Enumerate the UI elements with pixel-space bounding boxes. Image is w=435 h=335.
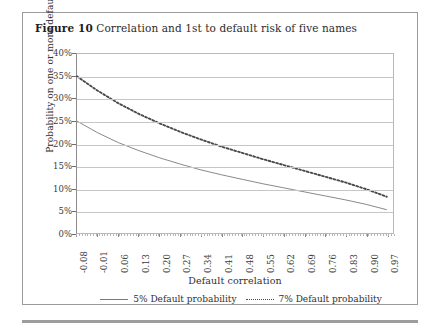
- legend-label-dotted: 7% Default probability: [279, 294, 382, 304]
- x-minor-tick-mark: [190, 234, 191, 236]
- x-minor-tick-mark: [298, 234, 299, 236]
- y-tick-label: 5%: [59, 207, 73, 216]
- y-tick-mark: [72, 53, 76, 54]
- x-minor-tick-mark: [201, 234, 202, 236]
- x-minor-tick-mark: [300, 234, 301, 236]
- x-minor-tick-mark: [127, 234, 128, 236]
- y-tick-label: 40%: [53, 49, 72, 58]
- x-minor-tick-mark: [153, 234, 154, 236]
- x-tick-label: 0.34: [204, 254, 213, 273]
- y-tick-label: 15%: [53, 162, 72, 171]
- x-minor-tick-mark: [326, 234, 327, 236]
- y-tick-mark: [72, 211, 76, 212]
- x-minor-tick-mark: [235, 234, 236, 236]
- y-tick-label: 35%: [53, 72, 72, 81]
- x-minor-tick-mark: [275, 234, 276, 236]
- x-minor-tick-mark: [204, 234, 205, 236]
- x-minor-tick-mark: [130, 234, 131, 236]
- x-minor-tick-mark: [170, 234, 171, 236]
- page-bottom-rule: [22, 320, 418, 323]
- figure-box: Figure 10 Correlation and 1st to default…: [22, 12, 418, 305]
- x-tick-label: 0.69: [308, 254, 317, 273]
- x-tick-label: -0.08: [80, 251, 89, 273]
- x-minor-tick-mark: [167, 234, 168, 236]
- x-minor-tick-mark: [255, 234, 256, 236]
- y-tick-mark: [72, 166, 76, 167]
- x-minor-tick-mark: [175, 234, 176, 236]
- gridline: [77, 99, 393, 100]
- x-minor-tick-mark: [99, 234, 100, 236]
- x-minor-tick-mark: [258, 234, 259, 236]
- x-minor-tick-mark: [187, 234, 188, 236]
- x-minor-tick-mark: [283, 234, 284, 236]
- x-minor-tick-mark: [119, 234, 120, 236]
- x-minor-tick-mark: [380, 234, 381, 236]
- x-minor-tick-mark: [368, 234, 369, 236]
- gridline: [77, 145, 393, 146]
- gridline: [77, 190, 393, 191]
- series-line-dotted: [77, 76, 387, 196]
- x-minor-tick-mark: [386, 234, 387, 236]
- x-minor-tick-mark: [184, 234, 185, 236]
- x-minor-tick-mark: [87, 234, 88, 236]
- x-minor-tick-mark: [198, 234, 199, 236]
- x-minor-tick-mark: [363, 234, 364, 236]
- y-tick-mark: [72, 121, 76, 122]
- x-minor-tick-mark: [241, 234, 242, 236]
- gridline: [77, 167, 393, 168]
- x-minor-tick-mark: [351, 234, 352, 236]
- x-minor-tick-mark: [124, 234, 125, 236]
- x-minor-tick-mark: [141, 234, 142, 236]
- x-minor-tick-mark: [309, 234, 310, 236]
- curves-svg: [77, 54, 393, 233]
- x-minor-tick-mark: [272, 234, 273, 236]
- x-minor-tick-mark: [93, 234, 94, 236]
- x-minor-tick-mark: [207, 234, 208, 236]
- x-minor-tick-mark: [252, 234, 253, 236]
- x-minor-tick-mark: [377, 234, 378, 236]
- x-minor-tick-mark: [110, 234, 111, 236]
- x-minor-tick-mark: [374, 234, 375, 236]
- x-minor-tick-mark: [329, 234, 330, 236]
- x-minor-tick-mark: [388, 234, 389, 236]
- x-minor-tick-mark: [82, 234, 83, 236]
- x-minor-tick-mark: [150, 234, 151, 236]
- x-minor-tick-mark: [181, 234, 182, 236]
- x-minor-tick-mark: [192, 234, 193, 236]
- x-axis-title: Default correlation: [76, 275, 394, 286]
- x-tick-label: 0.06: [121, 254, 130, 273]
- x-minor-tick-mark: [229, 234, 230, 236]
- x-minor-tick-mark: [85, 234, 86, 236]
- x-minor-tick-mark: [232, 234, 233, 236]
- y-tick-label: 30%: [53, 94, 72, 103]
- x-tick-label: 0.48: [246, 254, 255, 273]
- x-minor-tick-mark: [317, 234, 318, 236]
- x-tick-label: -0.01: [100, 251, 109, 273]
- x-minor-tick-mark: [144, 234, 145, 236]
- y-tick-label: 10%: [53, 185, 72, 194]
- x-minor-tick-mark: [136, 234, 137, 236]
- x-minor-tick-mark: [156, 234, 157, 236]
- legend-line-dotted-icon: [246, 299, 274, 300]
- gridline: [77, 77, 393, 78]
- chart-legend: 5% Default probability 7% Default probab…: [76, 294, 406, 304]
- x-minor-tick-mark: [104, 234, 105, 236]
- x-minor-tick-mark: [323, 234, 324, 236]
- x-minor-tick-mark: [244, 234, 245, 236]
- legend-entry-solid: 5% Default probability: [100, 294, 236, 304]
- x-minor-tick-mark: [292, 234, 293, 236]
- x-minor-tick-mark: [366, 234, 367, 236]
- y-tick-mark: [72, 189, 76, 190]
- x-minor-tick-mark: [238, 234, 239, 236]
- gridline: [77, 212, 393, 213]
- x-minor-tick-mark: [394, 234, 395, 236]
- x-tick-mark: [97, 234, 98, 237]
- plot-area: [76, 53, 394, 234]
- x-minor-tick-mark: [139, 234, 140, 236]
- x-minor-tick-mark: [79, 234, 80, 236]
- x-tick-label: 0.76: [329, 254, 338, 273]
- x-tick-label: 0.83: [350, 254, 359, 273]
- x-tick-label: 0.62: [287, 254, 296, 273]
- x-tick-label: 0.41: [225, 254, 234, 273]
- x-minor-tick-mark: [221, 234, 222, 236]
